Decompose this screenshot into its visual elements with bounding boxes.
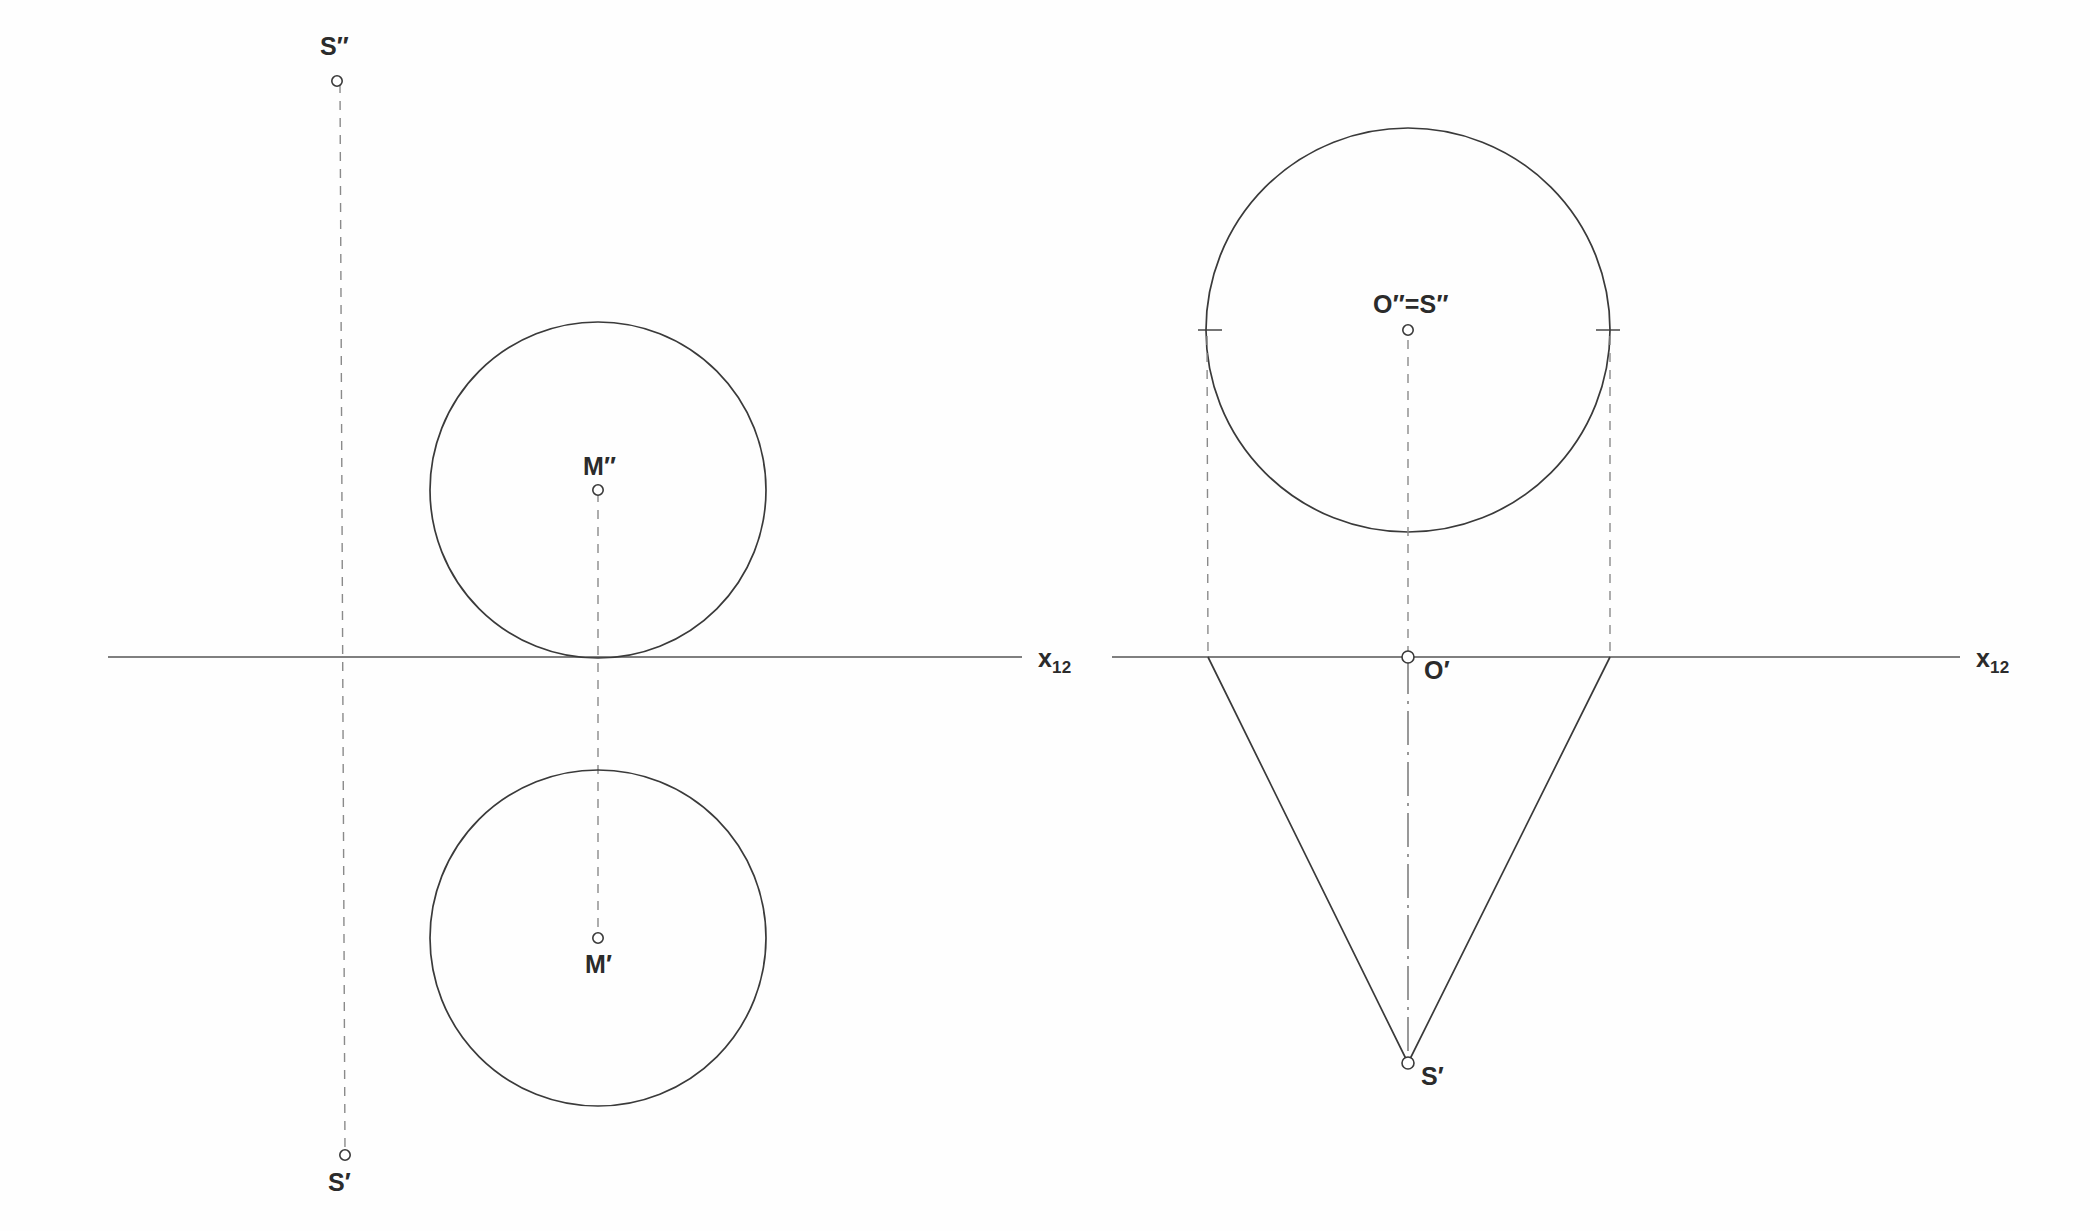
cone-front-view-outline [1208,657,1610,1063]
label-m-prime: M′ [585,950,612,979]
point-marker-o-double-prime [1403,325,1413,335]
point-marker-m-prime [593,933,603,943]
label-right-x12: x12 [1976,644,2009,678]
geometry-canvas [0,0,2090,1231]
label-s-prime-cone: S′ [1421,1062,1444,1091]
x12-subscript-right: 12 [1990,658,2009,677]
left-view-group [108,76,1022,1160]
left-projector-line-s [340,84,345,1152]
label-s-prime: S′ [328,1168,351,1197]
x12-base-left: x [1038,644,1052,672]
right-view-group [1112,128,1960,1069]
point-marker-o-prime [1402,651,1414,663]
point-marker-m-double-prime [593,485,603,495]
drawing-sheet: S″ S′ M″ M′ x12 O″=S″ O′ S′ x12 [0,0,2090,1231]
point-marker-s-prime-cone [1402,1057,1414,1069]
label-s-double-prime: S″ [320,32,349,61]
x12-base-right: x [1976,644,1990,672]
label-m-double-prime: M″ [583,452,616,481]
label-o-prime: O′ [1424,656,1450,685]
label-o-double-prime-equals-s-double-prime: O″=S″ [1373,290,1449,319]
right-projector-left [1207,336,1208,657]
label-left-x12: x12 [1038,644,1071,678]
x12-subscript-left: 12 [1052,658,1071,677]
point-marker-s-double-prime [332,76,342,86]
point-marker-s-prime [340,1150,350,1160]
